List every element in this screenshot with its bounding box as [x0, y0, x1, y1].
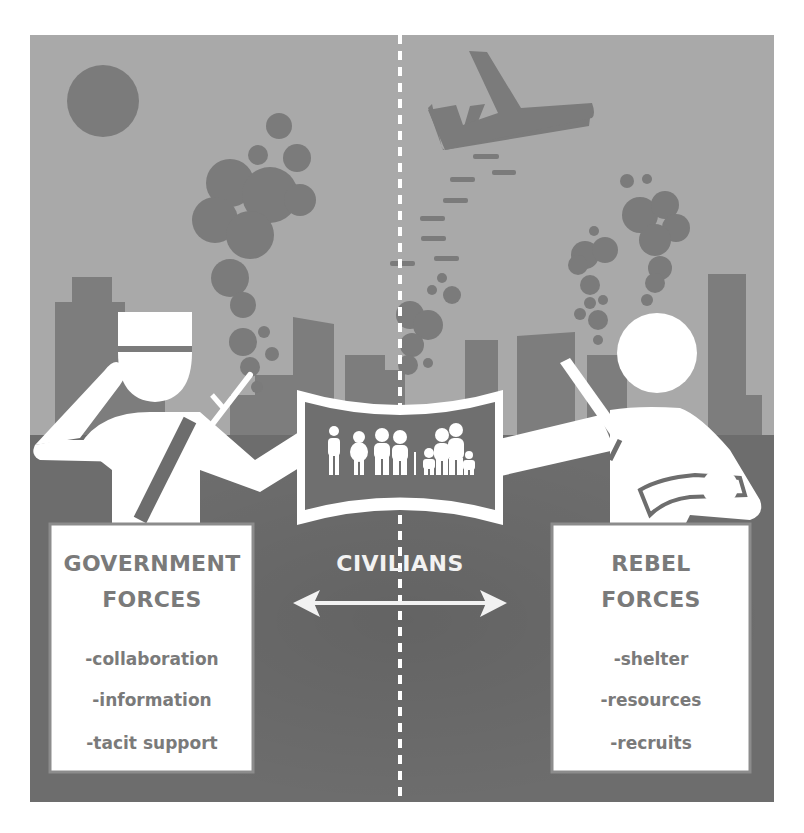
list-item: -information	[92, 690, 211, 710]
list-item: -collaboration	[85, 649, 218, 669]
list-item: -recruits	[610, 733, 692, 753]
infographic: GOVERNMENT FORCES -collaboration -inform…	[0, 0, 804, 833]
government-forces-box: GOVERNMENT FORCES -collaboration -inform…	[50, 524, 253, 772]
box-title: GOVERNMENT	[64, 551, 241, 576]
rebel-forces-box: REBEL FORCES -shelter -resources -recrui…	[552, 524, 750, 772]
sun-icon	[67, 65, 139, 137]
box-title: FORCES	[102, 587, 202, 612]
box-title: FORCES	[601, 587, 701, 612]
civilians-label: CIVILIANS	[336, 551, 464, 576]
box-title: REBEL	[611, 551, 690, 576]
list-item: -tacit support	[86, 733, 217, 753]
list-item: -shelter	[614, 649, 689, 669]
list-item: -resources	[601, 690, 702, 710]
